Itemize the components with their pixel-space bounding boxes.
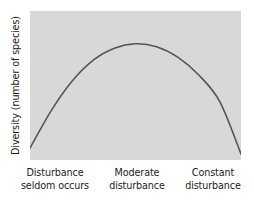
x-axis-label-middle-line1: Moderate <box>96 166 178 179</box>
x-axis-label-right-line1: Constant <box>174 166 252 179</box>
plot-panel <box>30 11 241 160</box>
x-axis-label-middle: Moderate disturbance <box>96 166 178 192</box>
x-axis-label-middle-line2: disturbance <box>96 179 178 192</box>
x-axis-label-left: Disturbance seldom occurs <box>6 166 104 192</box>
x-axis-label-right: Constant disturbance <box>174 166 252 192</box>
y-axis-label: Diversity (number of species) <box>0 0 30 170</box>
intermediate-disturbance-figure: Diversity (number of species) Disturbanc… <box>0 0 254 208</box>
x-axis-label-left-line1: Disturbance <box>6 166 104 179</box>
diversity-curve-svg <box>30 11 241 160</box>
x-axis-label-right-line2: disturbance <box>174 179 252 192</box>
y-axis-label-text: Diversity (number of species) <box>10 16 21 155</box>
x-axis-label-left-line2: seldom occurs <box>6 179 104 192</box>
diversity-curve-path <box>30 44 241 154</box>
x-axis-labels: Disturbance seldom occurs Moderate distu… <box>0 166 254 208</box>
